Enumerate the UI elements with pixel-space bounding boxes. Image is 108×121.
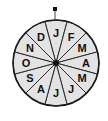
sector-march-label: M <box>77 42 86 54</box>
sector-may-label: M <box>77 72 86 84</box>
wheel-hub-icon <box>53 60 59 66</box>
sector-april-label: A <box>82 57 90 69</box>
month-wheel-figure: JFMAMJJASOND <box>0 0 108 121</box>
sector-november-label: N <box>26 42 34 54</box>
sector-august-label: A <box>37 83 45 95</box>
sector-september-label: S <box>26 72 33 84</box>
sector-february-label: F <box>68 31 75 43</box>
sector-october-label: O <box>22 57 31 69</box>
month-wheel-svg: JFMAMJJASOND <box>0 0 108 121</box>
sector-june-label: J <box>68 83 74 95</box>
sector-january-label: J <box>53 27 59 39</box>
sector-july-label: J <box>53 87 59 99</box>
pointer-marker-icon <box>53 7 57 11</box>
sector-december-label: D <box>37 31 45 43</box>
